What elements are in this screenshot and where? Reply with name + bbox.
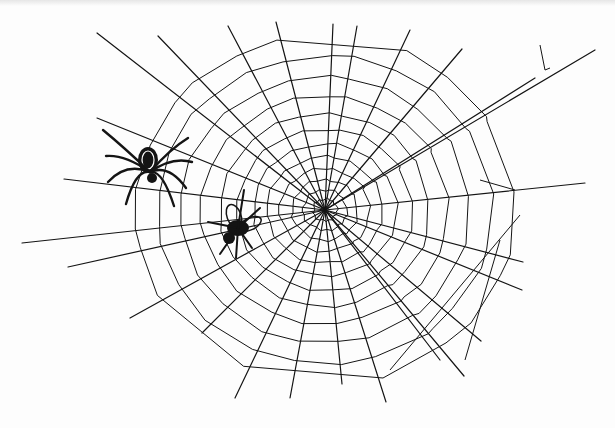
web-spokes [22, 22, 595, 402]
web-anchor-threads [390, 45, 550, 370]
spider-icon [103, 130, 192, 206]
web-illustration: Pen-and-ink drawing of a spider web with… [0, 0, 615, 428]
web-drawing [0, 0, 615, 428]
paper-edge-shadow [0, 0, 615, 6]
